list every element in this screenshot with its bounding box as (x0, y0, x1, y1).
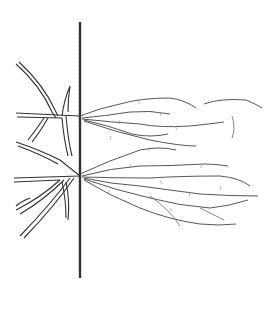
main-stem (79, 22, 81, 278)
plant-drawing (0, 0, 264, 318)
botanical-illustration (0, 0, 264, 318)
lower-shoots (14, 142, 80, 238)
upper-roots (80, 98, 262, 146)
lower-roots (80, 148, 258, 226)
upper-shoots (16, 62, 80, 156)
